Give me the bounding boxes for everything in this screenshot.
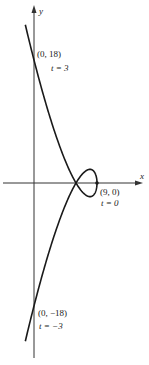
x-axis-arrow-icon xyxy=(135,181,143,186)
y-axis-label: y xyxy=(38,6,43,16)
point-label-0-18: (0, 18) xyxy=(37,49,61,59)
param-label-t-3: t = 3 xyxy=(51,63,69,73)
x-axis-label: x xyxy=(139,171,144,181)
parametric-curve-diagram: y x (0, 18) t = 3 (9, 0) t = 0 (0, −18) … xyxy=(0,0,149,365)
y-axis-arrow-icon xyxy=(32,5,37,13)
annotation-0-18: (0, 18) t = 3 xyxy=(37,49,69,73)
annotation-9-0: (9, 0) t = 0 xyxy=(100,187,120,208)
point-label-9-0: (9, 0) xyxy=(100,187,120,197)
param-label-t-neg3: t = −3 xyxy=(39,321,63,331)
point-9-0-marker xyxy=(95,181,99,185)
param-label-t-0: t = 0 xyxy=(101,198,119,208)
point-label-0-neg18: (0, −18) xyxy=(38,308,67,318)
annotation-0-neg18: (0, −18) t = −3 xyxy=(38,308,67,331)
